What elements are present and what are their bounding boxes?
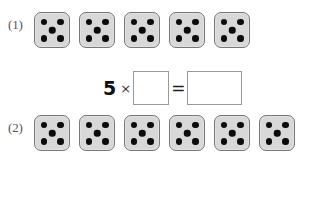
pip [102, 19, 109, 26]
pip [49, 27, 56, 34]
pip [139, 130, 146, 137]
pip [237, 19, 244, 26]
operand-answer-box[interactable] [133, 71, 169, 105]
pip [131, 19, 138, 26]
pip [221, 35, 228, 42]
pip [184, 27, 191, 34]
die [259, 115, 295, 151]
equals-sign: = [171, 80, 185, 97]
die [169, 115, 205, 151]
pip [282, 122, 289, 129]
pip [221, 122, 228, 129]
pip [176, 35, 183, 42]
pip [147, 35, 154, 42]
pip [176, 19, 183, 26]
die [169, 12, 205, 48]
problem-2: (2) [0, 113, 321, 153]
pip [131, 35, 138, 42]
pip [282, 138, 289, 145]
pip [274, 130, 281, 137]
problem-1-dice-row [0, 10, 321, 50]
die [214, 115, 250, 151]
pip [192, 35, 199, 42]
pip [192, 19, 199, 26]
pip [131, 122, 138, 129]
pip [192, 122, 199, 129]
pip [57, 138, 64, 145]
pip [57, 35, 64, 42]
pip [86, 35, 93, 42]
problem-1: (1) [0, 10, 321, 50]
pip [266, 138, 273, 145]
pip [237, 122, 244, 129]
pip [131, 138, 138, 145]
pip [41, 122, 48, 129]
pip [102, 138, 109, 145]
pip [86, 122, 93, 129]
pip [41, 138, 48, 145]
die [79, 12, 115, 48]
pip [147, 138, 154, 145]
pip [176, 122, 183, 129]
problem-1-equation: 5 × = [103, 69, 242, 107]
result-answer-box[interactable] [187, 71, 242, 105]
pip [237, 35, 244, 42]
multiplication-sign: × [120, 82, 131, 95]
pip [57, 19, 64, 26]
pip [184, 130, 191, 137]
multiplier-value: 5 [103, 79, 116, 98]
die [34, 115, 70, 151]
pip [237, 138, 244, 145]
pip [176, 138, 183, 145]
pip [221, 19, 228, 26]
pip [147, 19, 154, 26]
pip [102, 122, 109, 129]
pip [41, 19, 48, 26]
worksheet: (1) [0, 0, 321, 219]
die [124, 115, 160, 151]
die [124, 12, 160, 48]
pip [147, 122, 154, 129]
die [79, 115, 115, 151]
pip [49, 130, 56, 137]
pip [192, 138, 199, 145]
pip [57, 122, 64, 129]
pip [221, 138, 228, 145]
pip [86, 19, 93, 26]
problem-2-dice-row [0, 113, 321, 153]
pip [102, 35, 109, 42]
pip [266, 122, 273, 129]
pip [86, 138, 93, 145]
die [34, 12, 70, 48]
pip [229, 27, 236, 34]
pip [229, 130, 236, 137]
pip [41, 35, 48, 42]
pip [94, 130, 101, 137]
die [214, 12, 250, 48]
pip [94, 27, 101, 34]
pip [139, 27, 146, 34]
